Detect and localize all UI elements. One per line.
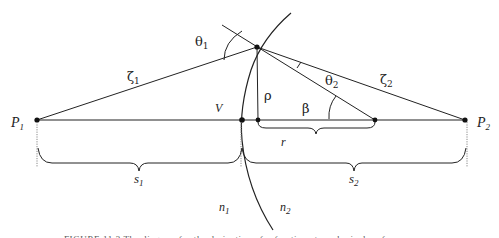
label-theta1: θ1: [195, 34, 209, 51]
label-s2: s2: [349, 171, 359, 188]
label-p1: P1: [10, 115, 24, 132]
point-center: [373, 118, 378, 123]
spherical-interface-arc: [241, 13, 291, 230]
rho-line: [257, 47, 258, 120]
ray-zeta2: [257, 47, 465, 120]
figure-caption: FIGURE 11.3 The diagram for the derivati…: [64, 234, 399, 238]
label-vertex: V: [215, 101, 224, 115]
brace-r: [258, 122, 375, 134]
point-rho-foot: [256, 118, 261, 123]
surface-normal: [222, 25, 375, 120]
point-p2: [462, 117, 467, 122]
label-theta2: θ2: [325, 73, 339, 90]
label-p2: P2: [476, 115, 491, 132]
label-n1: n1: [219, 200, 230, 216]
point-refraction: [254, 44, 259, 49]
brace-s1: [38, 148, 242, 171]
label-zeta2: ζ2: [380, 72, 393, 89]
point-vertex: [239, 117, 245, 123]
refraction-diagram: P1 P2 V θ1 θ2 β ζ1 ζ2 ρ r s1 s2 n1 n2 FI…: [0, 0, 499, 238]
point-p1: [34, 117, 39, 122]
label-r: r: [281, 135, 286, 149]
label-zeta1: ζ1: [127, 69, 140, 86]
label-s1: s1: [134, 171, 144, 188]
brace-s2: [242, 148, 466, 171]
beta-arc: [329, 96, 336, 119]
theta2-arc: [297, 62, 301, 68]
label-n2: n2: [280, 200, 291, 216]
label-beta: β: [302, 101, 310, 116]
label-rho: ρ: [264, 88, 272, 103]
